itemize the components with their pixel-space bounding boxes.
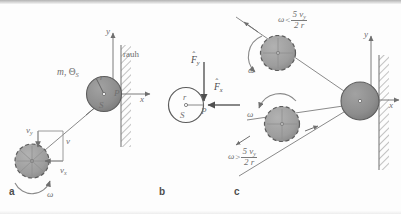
panel-b-center-dot bbox=[184, 103, 187, 106]
panel-c-upper-arrowhead bbox=[244, 22, 258, 32]
panel-a-wall-label: rauh bbox=[123, 50, 139, 59]
panel-c-condition-lower: ω>5 vy2 r bbox=[228, 147, 257, 167]
panel-a-center-label: S bbox=[99, 101, 104, 110]
panel-a-mass-inertia-label: m, ΘS bbox=[57, 68, 79, 78]
panel-c-omega-lower-label: ω bbox=[247, 110, 253, 119]
panel-a-omega-label: ω bbox=[47, 190, 53, 199]
panel-c-cond-upper-num: 5 v bbox=[292, 9, 303, 19]
panel-a-v-label: v bbox=[66, 137, 70, 146]
panel-a-radius-label: r bbox=[100, 73, 103, 82]
panel-c-ball-at-wall bbox=[341, 82, 379, 120]
panel-c-lower-arrowhead bbox=[236, 136, 250, 145]
panel-b-force-y-hat: ˆ bbox=[193, 52, 196, 60]
panel-a-vy-subscript: y bbox=[30, 130, 33, 136]
panel-a-wall bbox=[121, 45, 131, 147]
panel-a-theta-subscript: S bbox=[76, 71, 79, 78]
panel-c-graphics bbox=[236, 17, 399, 176]
panel-a-contact-point-label: P bbox=[114, 89, 120, 98]
panel-c-ball-lower bbox=[265, 107, 300, 142]
panel-a-vy-label: vy bbox=[26, 126, 33, 136]
panel-c-incoming-lower bbox=[247, 104, 357, 120]
panel-c-cond-upper-relation: < bbox=[284, 16, 291, 25]
panel-c-cond-lower-relation: > bbox=[234, 153, 241, 162]
panel-c-y-axis-label: y bbox=[364, 30, 368, 39]
panel-a-y-axis-label: y bbox=[106, 27, 110, 36]
panel-b-letter: b bbox=[159, 186, 165, 197]
panel-b-force-y-subscript: y bbox=[197, 59, 200, 66]
panel-b-force-x-hat: ˆ bbox=[216, 79, 219, 87]
panel-c-x-axis-label: x bbox=[389, 101, 393, 110]
panel-c-condition-upper: ω<5 vy2 r bbox=[278, 10, 307, 30]
panel-c-cond-upper-den: 2 r bbox=[291, 21, 306, 30]
panel-a-letter: a bbox=[9, 186, 15, 197]
panel-c-cond-upper-num-sub: y bbox=[303, 14, 306, 20]
physics-figure-bouncing-ball: rauh y x P S r m, ΘS vy v vx ω a r S P ˆ… bbox=[0, 0, 401, 214]
panel-a-mass-symbol: m bbox=[57, 67, 64, 77]
panel-a-theta-symbol: Θ bbox=[69, 67, 76, 77]
panel-a-x-axis-label: x bbox=[140, 95, 144, 104]
panel-c-omega-arc-lower bbox=[259, 94, 296, 108]
panel-a-ball-incoming bbox=[15, 144, 49, 178]
panel-c-cond-lower-num: 5 v bbox=[242, 146, 253, 156]
panel-b-force-x-label: ˆFx bbox=[214, 83, 223, 93]
panel-b-center-label: S bbox=[180, 111, 185, 120]
panel-a-vx-label: vx bbox=[60, 166, 67, 176]
panel-b-force-y-label: ˆFy bbox=[191, 56, 200, 66]
panel-c-ball-upper bbox=[261, 36, 296, 71]
panel-b-contact-point-label: P bbox=[201, 107, 207, 116]
panel-c-cond-lower-den: 2 r bbox=[241, 158, 256, 167]
panel-b-radius-label: r bbox=[183, 93, 186, 102]
panel-c-cond-lower-num-sub: y bbox=[253, 151, 256, 157]
panel-c-omega-upper-label: ω bbox=[248, 66, 254, 75]
panel-a-vx-subscript: x bbox=[64, 170, 67, 176]
panel-c-wall bbox=[379, 55, 389, 170]
panel-b-force-x-subscript: x bbox=[220, 86, 223, 93]
panel-c-letter: c bbox=[234, 186, 240, 197]
panel-a-omega-arc bbox=[15, 181, 50, 194]
